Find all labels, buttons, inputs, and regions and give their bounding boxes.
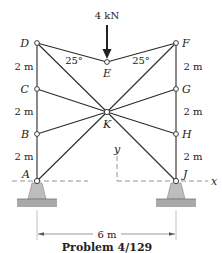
dim-horizontal: 6 m bbox=[97, 229, 117, 240]
axis-label-y: y bbox=[113, 143, 121, 156]
support-A bbox=[17, 183, 57, 207]
pin-H bbox=[174, 132, 179, 137]
pin-K bbox=[104, 109, 109, 114]
dim-arrow-right-icon bbox=[169, 232, 175, 236]
load-arrow-icon bbox=[103, 25, 112, 59]
joint-label-J: J bbox=[181, 168, 188, 181]
pin-D bbox=[35, 41, 40, 46]
joint-label-G: G bbox=[182, 83, 191, 96]
joint-label-E: E bbox=[102, 67, 111, 80]
dim-right-1: 2 m bbox=[183, 61, 203, 72]
joint-label-K: K bbox=[102, 118, 112, 131]
joint-label-F: F bbox=[181, 37, 190, 50]
dim-left-3: 2 m bbox=[14, 151, 34, 162]
pin-A bbox=[34, 178, 39, 183]
pin-B bbox=[35, 132, 40, 137]
joint-label-D: D bbox=[19, 37, 29, 50]
dim-left-2: 2 m bbox=[14, 106, 34, 117]
support-J bbox=[156, 183, 196, 207]
pin-E bbox=[105, 60, 110, 65]
truss-diagram: 4 kN D F E C G K B H A J 25° 25° 2 m 2 m… bbox=[0, 0, 222, 253]
pin-G bbox=[174, 87, 179, 92]
joint-label-C: C bbox=[21, 83, 30, 96]
dim-arrow-left-icon bbox=[38, 232, 44, 236]
dim-left-1: 2 m bbox=[14, 61, 34, 72]
pin-C bbox=[35, 87, 40, 92]
joint-label-B: B bbox=[20, 128, 29, 141]
figure-caption: Problem 4/129 bbox=[62, 241, 152, 253]
angle-label-left: 25° bbox=[65, 55, 83, 66]
axis-label-x: x bbox=[211, 175, 218, 188]
pin-J bbox=[173, 178, 178, 183]
dim-right-3: 2 m bbox=[183, 151, 203, 162]
joint-label-A: A bbox=[21, 168, 30, 181]
load-label: 4 kN bbox=[95, 10, 120, 21]
pin-F bbox=[174, 41, 179, 46]
angle-label-right: 25° bbox=[132, 55, 150, 66]
joint-label-H: H bbox=[181, 128, 192, 141]
dim-right-2: 2 m bbox=[183, 106, 203, 117]
